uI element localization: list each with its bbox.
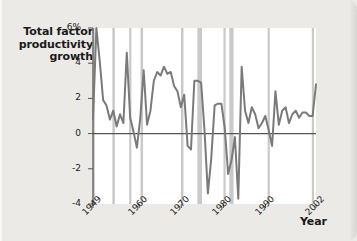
y-axis-tick-label: 0 xyxy=(55,128,81,138)
recession-band xyxy=(197,28,202,204)
y-axis-tick-label: 6% xyxy=(55,22,81,32)
recession-band xyxy=(268,28,270,204)
recession-band xyxy=(229,28,233,204)
recession-band xyxy=(181,28,184,204)
y-axis-tick-label: 2 xyxy=(55,92,81,102)
figure-container: Total factor productivity growth Year 6%… xyxy=(0,0,357,241)
y-axis-tick-label: -4 xyxy=(55,198,81,208)
chart-card: Total factor productivity growth Year 6%… xyxy=(0,0,357,241)
y-axis-tick-label: 4 xyxy=(55,57,81,67)
x-axis-ticks xyxy=(93,204,316,208)
y-axis-tick-label: -2 xyxy=(55,163,81,173)
